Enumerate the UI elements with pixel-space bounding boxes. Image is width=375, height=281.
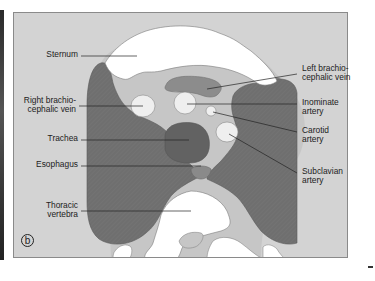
- inominate-artery-shape: [174, 92, 196, 114]
- label-subclavian-artery: Subclavian artery: [302, 167, 372, 186]
- label-thoracic-vertebra: Thoracic vertebra: [20, 201, 78, 220]
- carotid-artery-shape: [206, 106, 216, 116]
- label-carotid-artery: Carotid artery: [302, 126, 372, 145]
- subclavian-artery-shape: [216, 122, 238, 142]
- label-trachea: Trachea: [30, 134, 78, 143]
- label-right-brachiocephalic-vein: Right brachio- cephalic vein: [14, 96, 76, 115]
- figure-page: Sternum Right brachio- cephalic vein Tra…: [0, 0, 375, 281]
- label-left-brachiocephalic-vein: Left brachio- cephalic vein: [302, 64, 372, 83]
- label-inominate-artery: Inominate artery: [302, 98, 372, 117]
- panel-letter-badge: b: [21, 234, 34, 247]
- trachea-shape: [165, 123, 209, 164]
- label-esophagus: Esophagus: [20, 160, 78, 169]
- rib-fragment-far-right: [263, 245, 285, 258]
- page-tick-mark: [368, 266, 373, 268]
- adjacent-figure-edge: [0, 10, 4, 260]
- label-sternum: Sternum: [30, 50, 78, 59]
